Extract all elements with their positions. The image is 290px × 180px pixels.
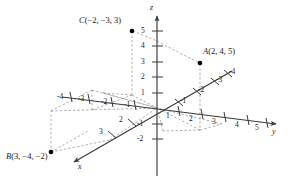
y-tick-label-1: 1 — [166, 112, 170, 120]
zaxis-to-a-dashed — [157, 41, 199, 63]
point-label-b: B(3, −4, −2) — [6, 152, 48, 161]
z-tick-label-neg1: -1 — [137, 120, 143, 128]
point-b-coords: (3, −4, −2) — [11, 151, 48, 161]
point-marker-c — [130, 29, 135, 34]
y-axis-label: y — [272, 128, 276, 136]
y-tick-label-3: 3 — [212, 118, 216, 126]
y-tick-label-neg3: -3 — [78, 95, 84, 103]
x-tick-label-neg3: -3 — [216, 76, 222, 84]
y-tick-label-neg2: -2 — [101, 98, 107, 106]
a-base-lower — [163, 130, 200, 131]
point-label-a: A(2, 4, 5) — [203, 47, 235, 56]
z-tick-label-5: 5 — [141, 27, 145, 35]
x-tick-label-2: 2 — [119, 116, 123, 124]
b-base-to-origin — [51, 108, 157, 111]
x-tick-label-neg1: -1 — [180, 97, 186, 105]
z-axis-label: z — [150, 4, 153, 12]
c-to-zaxis-dashed — [133, 31, 157, 41]
x-tick-3 — [108, 131, 116, 138]
point-a-coords: (2, 4, 5) — [208, 46, 235, 56]
z-tick-label-4: 4 — [141, 42, 145, 50]
y-tick-label-neg4: -4 — [57, 93, 63, 101]
y-tick-label-neg1: -1 — [124, 101, 130, 109]
x-axis-line — [74, 71, 232, 162]
a-base-right — [200, 124, 222, 130]
x-tick-label-3: 3 — [99, 128, 103, 136]
y-tick-label-5: 5 — [255, 124, 259, 132]
point-marker-b — [49, 150, 54, 155]
y-tick-neg3 — [88, 94, 90, 104]
z-tick-label-neg2: -2 — [137, 135, 143, 143]
z-tick-label-2: 2 — [141, 73, 145, 81]
y-tick-label-2: 2 — [189, 115, 193, 123]
x-tick-label-neg4: -4 — [229, 68, 235, 76]
y-tick-1 — [178, 106, 180, 116]
z-tick-label-1: 1 — [141, 89, 145, 97]
x-axis-label: x — [78, 163, 82, 171]
x-tick-label-neg2: -2 — [198, 86, 204, 94]
axis-lines — [62, 16, 276, 176]
z-tick-label-3: 3 — [141, 58, 145, 66]
point-label-c: C(−2, −3, 3) — [79, 16, 121, 25]
point-marker-a — [198, 61, 203, 66]
b-lower-diag — [51, 131, 88, 152]
y-tick-label-4: 4 — [235, 121, 239, 129]
point-markers — [49, 29, 203, 155]
point-c-coords: (−2, −3, 3) — [85, 15, 122, 25]
y-tick-neg2 — [111, 97, 113, 107]
coordinate-system-figure: z y x 5 4 3 2 1 -1 -2 1 2 3 4 5 -1 -2 -3… — [0, 0, 290, 180]
